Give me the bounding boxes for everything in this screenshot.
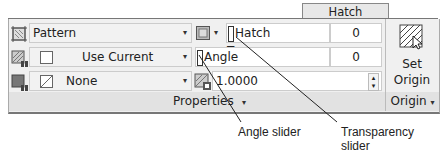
angle-slider-callout: Angle slider [238,125,301,139]
transparency-slider-callout: Transparency slider [341,125,444,150]
